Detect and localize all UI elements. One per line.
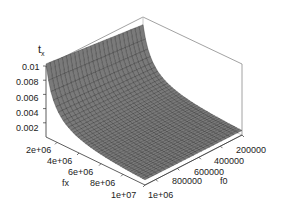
z-tick-label: 0.008: [16, 78, 39, 87]
x-tick-label: 1e+07: [111, 191, 136, 200]
surface-plot: [0, 0, 284, 208]
y-tick-label: 400000: [214, 157, 244, 166]
x-tick-label: 4e+06: [47, 157, 72, 166]
surface-mesh: [46, 25, 242, 180]
y-tick-label: 800000: [172, 177, 202, 186]
x-tick-label: 8e+06: [90, 179, 115, 188]
z-tick-label: 0.004: [16, 109, 39, 118]
z-tick-label: 0.006: [16, 94, 39, 103]
x-tick-label: 2e+06: [26, 146, 51, 155]
z-tick-label: 0.002: [16, 124, 39, 133]
x-tick-label: 6e+06: [68, 168, 93, 177]
y-tick-label: 200000: [236, 146, 266, 155]
x-axis-title: fx: [62, 179, 69, 188]
z-tick-label: 0.01: [22, 63, 40, 72]
y-axis-title: f0: [220, 177, 228, 186]
z-axis-title: tx: [38, 44, 45, 55]
y-tick-label: 1e+06: [148, 191, 173, 200]
